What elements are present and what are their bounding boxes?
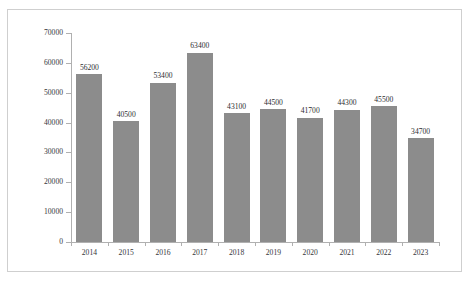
bar-value-label: 44500 bbox=[254, 99, 292, 107]
bar[interactable] bbox=[113, 121, 139, 242]
y-axis-tick-label: 20000 bbox=[18, 178, 63, 186]
bar[interactable] bbox=[76, 74, 102, 242]
bar-value-label: 41700 bbox=[291, 107, 329, 115]
bar-group[interactable]: 44300 bbox=[334, 33, 360, 242]
y-axis-tick-label: 50000 bbox=[18, 89, 63, 97]
bar-value-label: 53400 bbox=[144, 72, 182, 80]
bar[interactable] bbox=[297, 118, 323, 243]
bar[interactable] bbox=[408, 138, 434, 242]
bar-group[interactable]: 63400 bbox=[187, 33, 213, 242]
y-axis-tick-label: 30000 bbox=[18, 148, 63, 156]
bar-value-label: 44300 bbox=[328, 99, 366, 107]
bar[interactable] bbox=[187, 53, 213, 242]
bar[interactable] bbox=[371, 106, 397, 242]
y-axis-tick-label: 10000 bbox=[18, 208, 63, 216]
y-axis-tick-label: 40000 bbox=[18, 119, 63, 127]
bar-value-label: 63400 bbox=[181, 42, 219, 50]
bar[interactable] bbox=[150, 83, 176, 242]
bar-chart-plot-area: 5620040500534006340043100445004170044300… bbox=[71, 33, 439, 242]
bar-value-label: 43100 bbox=[218, 103, 256, 111]
bar-group[interactable]: 43100 bbox=[224, 33, 250, 242]
bar-value-label: 40500 bbox=[107, 111, 145, 119]
bar[interactable] bbox=[334, 110, 360, 242]
bar-group[interactable]: 53400 bbox=[150, 33, 176, 242]
y-axis-tick-label: 70000 bbox=[18, 29, 63, 37]
bar[interactable] bbox=[260, 109, 286, 242]
bar-value-label: 34700 bbox=[402, 128, 440, 136]
bar-value-label: 56200 bbox=[70, 64, 108, 72]
bar-value-label: 45500 bbox=[365, 96, 403, 104]
bar[interactable] bbox=[224, 113, 250, 242]
bar-group[interactable]: 41700 bbox=[297, 33, 323, 242]
bar-group[interactable]: 56200 bbox=[76, 33, 102, 242]
bar-group[interactable]: 45500 bbox=[371, 33, 397, 242]
bar-group[interactable]: 34700 bbox=[408, 33, 434, 242]
bar-group[interactable]: 40500 bbox=[113, 33, 139, 242]
y-axis-tick-label: 0 bbox=[18, 238, 63, 246]
bar-group[interactable]: 44500 bbox=[260, 33, 286, 242]
y-axis-tick-label: 60000 bbox=[18, 59, 63, 67]
y-axis-tick bbox=[66, 242, 71, 243]
